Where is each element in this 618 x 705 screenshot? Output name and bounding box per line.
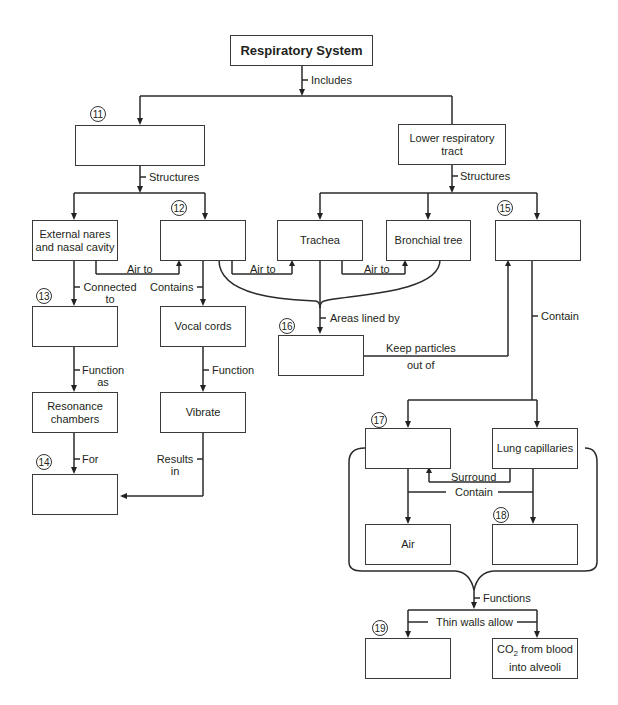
label-contains: Contains (150, 281, 193, 293)
blank-number-14: 14 (36, 454, 52, 470)
resonance-chambers-box: Resonance chambers (32, 392, 118, 433)
blank-number-17: 17 (371, 412, 387, 428)
label-functions: Functions (483, 592, 531, 604)
co2-box: CO2 from blood into alveoli (492, 638, 578, 679)
label-air-to-1: Air to (127, 263, 153, 275)
label-areas-lined-by: Areas lined by (330, 312, 400, 324)
label-air-to-2: Air to (250, 263, 276, 275)
label-air-to-3: Air to (364, 263, 390, 275)
blank-box-15[interactable] (495, 220, 581, 261)
blank-number-16: 16 (279, 318, 295, 334)
external-nares-box: External nares and nasal cavity (32, 220, 118, 261)
blank-box-16[interactable] (278, 335, 364, 376)
vibrate-box: Vibrate (160, 392, 246, 433)
blank-box-19[interactable] (365, 638, 451, 679)
blank-box-17[interactable] (365, 428, 451, 469)
blank-number-18: 18 (493, 507, 509, 523)
label-for: For (82, 453, 99, 465)
lower-respiratory-tract-box: Lower respiratory tract (398, 124, 506, 165)
blank-number-19: 19 (372, 620, 388, 636)
label-surround: Surround (451, 471, 496, 483)
label-function-as: Function as (82, 364, 124, 388)
blank-box-14[interactable] (32, 474, 118, 515)
label-keep-particles: Keep particles (386, 342, 456, 354)
lung-capillaries-box: Lung capillaries (492, 428, 578, 469)
label-results-in: Results in (155, 453, 195, 477)
blank-number-13: 13 (36, 288, 52, 304)
blank-number-15: 15 (497, 200, 513, 216)
air-box: Air (365, 524, 451, 565)
label-thin-walls-allow: Thin walls allow (436, 616, 513, 628)
blank-box-11[interactable] (75, 125, 205, 166)
label-contain-right: Contain (541, 310, 579, 322)
blank-box-18[interactable] (492, 524, 578, 565)
blank-number-12: 12 (171, 200, 187, 216)
label-function: Function (212, 364, 254, 376)
blank-number-11: 11 (90, 106, 106, 122)
trachea-box: Trachea (277, 220, 363, 261)
label-connected-to: Connected to (82, 281, 138, 305)
blank-box-13[interactable] (32, 306, 118, 347)
label-structures-left: Structures (149, 171, 199, 183)
label-out-of: out of (407, 359, 435, 371)
co2-text: CO2 from blood into alveoli (495, 643, 575, 673)
label-contain-lower: Contain (455, 486, 493, 498)
vocal-cords-box: Vocal cords (160, 306, 246, 347)
blank-box-12[interactable] (160, 220, 246, 261)
respiratory-system-box: Respiratory System (230, 35, 373, 66)
label-structures-right: Structures (460, 170, 510, 182)
bronchial-tree-box: Bronchial tree (386, 220, 471, 261)
label-includes: Includes (311, 74, 352, 86)
